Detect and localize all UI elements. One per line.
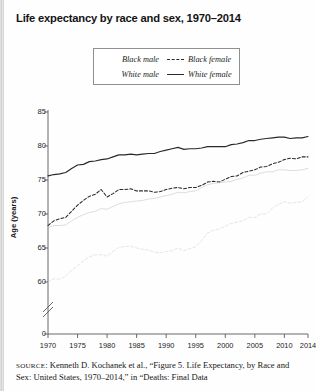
source-line-1: : Kenneth D. Kochanek et al., “Figure 5.…: [45, 360, 255, 370]
legend-item-white-male: White male: [94, 67, 165, 82]
source-prefix: SOURCE: [16, 362, 45, 370]
series-line-black-female: [48, 157, 308, 226]
legend-row: Black male Black female: [94, 52, 239, 67]
legend-item-black-male: Black male: [94, 52, 165, 67]
legend-item-black-female: Black female: [165, 52, 239, 67]
chart-svg: [0, 95, 316, 350]
chart-plot-area: Age (years) 8580757065600 19701975198019…: [0, 95, 316, 350]
figure-page: Life expectancy by race and sex, 1970–20…: [0, 0, 316, 391]
x-tick-marks: [48, 334, 308, 338]
legend-label-black-male: Black male: [122, 55, 159, 64]
legend-label-black-female: Black female: [188, 55, 231, 64]
axis-lines: [48, 110, 308, 334]
y-tick-marks: [44, 112, 48, 334]
legend-item-white-female: White female: [165, 67, 239, 82]
source-note: SOURCE: Kenneth D. Kochanek et al., “Fig…: [16, 360, 306, 384]
chart-legend: Black male Black female White male White…: [93, 48, 240, 85]
series-line-black-male: [48, 197, 308, 282]
legend-row: White male White female: [94, 67, 239, 82]
legend-label-white-female: White female: [188, 70, 232, 79]
legend-swatch-dashed-icon: [167, 56, 184, 63]
data-series-layer: [48, 136, 308, 282]
series-line-white-female: [48, 136, 308, 175]
legend-label-white-male: White male: [121, 70, 159, 79]
series-line-white-male: [48, 168, 308, 227]
figure-title: Life expectancy by race and sex, 1970–20…: [16, 12, 241, 24]
legend-swatch-solid-icon: [167, 71, 184, 78]
